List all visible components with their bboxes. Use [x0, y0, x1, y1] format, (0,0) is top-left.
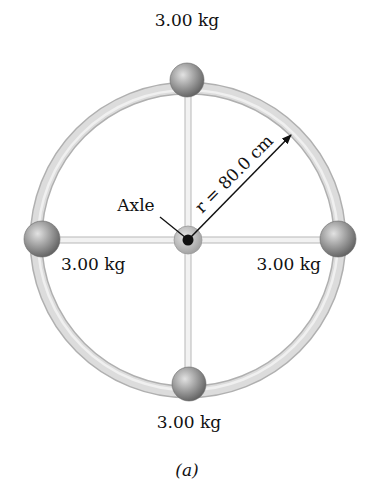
mass-left: [24, 221, 60, 257]
radius-label: r = 80.0 cm: [191, 131, 277, 217]
rotating-wheel-diagram: 3.00 kg 3.00 kg 3.00 kg 3.00 kg Axle r =…: [0, 0, 369, 499]
mass-label-bottom: 3.00 kg: [157, 412, 222, 432]
mass-top: [170, 63, 204, 97]
axle-label: Axle: [116, 195, 154, 215]
mass-label-left: 3.00 kg: [61, 254, 126, 274]
mass-right: [320, 221, 356, 257]
figure-caption: (a): [175, 460, 198, 480]
mass-bottom: [172, 367, 206, 401]
mass-label-right: 3.00 kg: [257, 254, 322, 274]
radius-arrow: [190, 135, 291, 238]
mass-label-top: 3.00 kg: [155, 10, 220, 30]
